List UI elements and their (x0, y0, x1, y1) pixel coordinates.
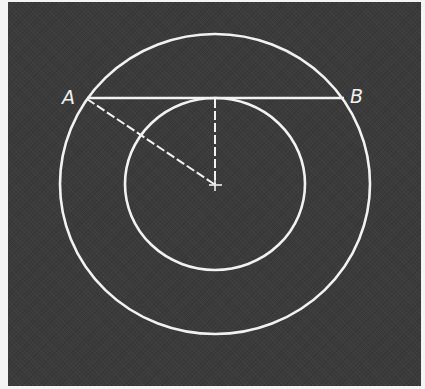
point-label-a: A (62, 88, 75, 107)
radius-a-to-center (87, 99, 214, 184)
point-label-b: B (350, 87, 363, 106)
geometry-diagram (0, 0, 425, 389)
